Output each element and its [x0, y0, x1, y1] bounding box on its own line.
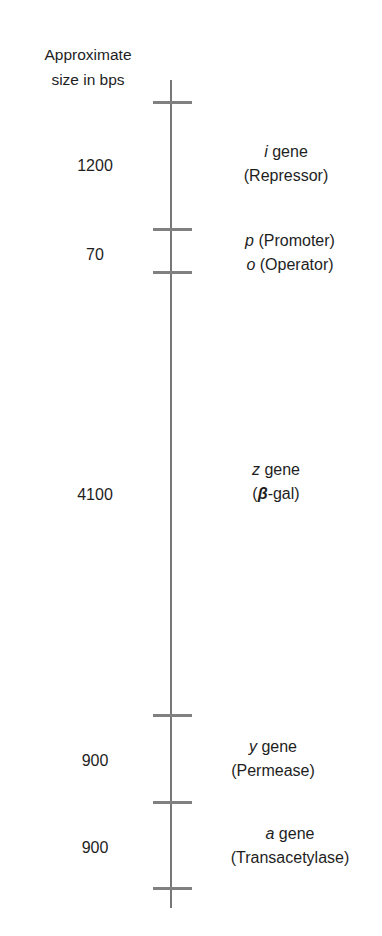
size-label-promoter-operator: 70: [40, 245, 150, 265]
gene-label-i: i gene (Repressor): [196, 140, 376, 188]
boundary-tick: [153, 887, 192, 890]
boundary-tick: [153, 228, 192, 231]
size-label-i-gene: 1200: [40, 156, 150, 176]
gene-label-y: y gene (Permease): [183, 735, 363, 783]
gene-word: gene: [260, 461, 300, 478]
gene-description: (Repressor): [196, 164, 376, 188]
operon-axis-line: [170, 80, 172, 908]
gene-description: (Transacetylase): [200, 846, 380, 870]
promoter-description: (Promoter): [254, 232, 335, 249]
size-label-y-gene: 900: [40, 751, 150, 771]
gene-label-z: z gene (β-gal): [186, 458, 366, 506]
beta-symbol: β: [258, 485, 268, 502]
gene-description: -gal): [268, 485, 300, 502]
size-label-z-gene: 4100: [40, 485, 150, 505]
operator-symbol: o: [246, 256, 255, 273]
boundary-tick: [153, 101, 192, 104]
axis-title-line1: Approximate: [26, 42, 150, 67]
gene-label-promoter-operator: p (Promoter) o (Operator): [196, 229, 376, 277]
axis-title: Approximate size in bps: [26, 42, 150, 92]
gene-word: gene: [257, 738, 297, 755]
boundary-tick: [153, 271, 192, 274]
size-label-a-gene: 900: [40, 838, 150, 858]
axis-title-line2: size in bps: [26, 67, 150, 92]
gene-word: gene: [268, 143, 308, 160]
gene-symbol: z: [252, 461, 260, 478]
boundary-tick: [153, 801, 192, 804]
boundary-tick: [153, 714, 192, 717]
promoter-symbol: p: [245, 232, 254, 249]
gene-word: gene: [274, 825, 314, 842]
operator-description: (Operator): [255, 256, 333, 273]
gene-label-a: a gene (Transacetylase): [200, 822, 380, 870]
gene-symbol: y: [249, 738, 257, 755]
gene-description: (Permease): [183, 759, 363, 783]
